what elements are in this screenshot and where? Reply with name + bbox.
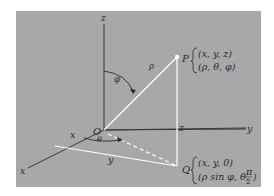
rho-label: ρ — [148, 61, 154, 71]
point-q-spherical: (ρ sin φ, θ, — [198, 171, 249, 182]
point-q-pi-denominator: 2 — [246, 178, 250, 186]
z-distance-label: z — [178, 123, 184, 133]
y-distance-label: y — [107, 154, 114, 165]
theta-label: θ — [97, 135, 102, 144]
point-q-pi-numerator: π — [245, 166, 253, 177]
z-axis-label: z — [100, 13, 106, 23]
point-q-cartesian: (x, y, 0) — [198, 157, 233, 168]
point-q-close-paren: ) — [252, 171, 257, 182]
point-p-spherical: (ρ, θ, φ) — [198, 61, 236, 72]
phi-label: φ — [114, 74, 120, 84]
x-axis-label: x — [20, 165, 26, 176]
point-p-dot — [175, 55, 179, 59]
point-p-label: P — [181, 53, 189, 64]
spherical-coordinates-diagram: z y x O φ ρ θ x y z P (x, y, z) (ρ, θ, φ… — [0, 0, 274, 196]
y-axis-label: y — [246, 123, 253, 134]
point-q-label: Q — [182, 164, 190, 175]
point-p-cartesian: (x, y, z) — [198, 48, 232, 59]
x-distance-label: x — [70, 129, 76, 140]
